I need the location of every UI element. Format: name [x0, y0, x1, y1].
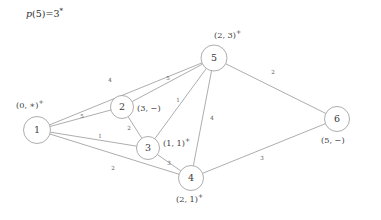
node-label-2: 2	[119, 101, 125, 112]
edge-weight-1-3: 1	[98, 133, 102, 139]
node-tag-value-2: (3, −)	[137, 103, 161, 113]
node-tag-4: (2, 1)+	[176, 194, 203, 204]
edge-weight-5-4: 4	[210, 115, 214, 121]
edges-group	[50, 63, 326, 174]
node-tag-value-3: (1, 1)	[163, 138, 185, 148]
edge-weight-3-4: 3	[167, 160, 171, 166]
node-tag-value-1: (0, ∗)	[16, 100, 38, 110]
node-tag-marker-1: +	[38, 98, 43, 105]
node-label-5: 5	[211, 52, 217, 63]
node-label-4: 4	[188, 172, 194, 183]
edge-weight-1-2: 5	[80, 113, 84, 119]
node-tag-marker-5: +	[236, 28, 241, 35]
edge-weight-2-5: 5	[166, 75, 170, 81]
edge-1-3	[50, 132, 136, 146]
nodes-group: 123456	[24, 45, 350, 191]
edge-weight-1-5: 4	[108, 77, 112, 83]
node-tag-1: (0, ∗)+	[16, 100, 44, 110]
edge-weight-1-4: 2	[111, 165, 115, 171]
edge-2-5	[132, 64, 202, 101]
node-label-6: 6	[334, 113, 340, 124]
edge-weight-2-3: 2	[127, 125, 131, 131]
node-tag-6: (5, −)	[321, 135, 345, 145]
graph-diagram-canvas: p(5)=3* 123456 45125213423 (0, ∗)+(3, −)…	[0, 0, 381, 220]
graph-svg: 123456	[0, 0, 381, 220]
node-tag-marker-3: +	[185, 136, 190, 143]
node-tag-3: (1, 1)+	[163, 138, 190, 148]
edge-4-6	[203, 124, 326, 174]
node-tag-value-6: (5, −)	[321, 135, 345, 145]
node-tag-value-5: (2, 3)	[214, 30, 236, 40]
node-tag-marker-4: +	[198, 192, 203, 199]
node-label-1: 1	[34, 124, 40, 135]
edge-weight-3-5: 1	[176, 97, 180, 103]
node-label-3: 3	[145, 142, 151, 153]
edge-5-6	[226, 64, 326, 114]
edge-weight-5-6: 2	[271, 69, 275, 75]
node-tag-2: (3, −)	[137, 103, 161, 113]
node-tag-5: (2, 3)+	[214, 30, 241, 40]
edge-weight-4-6: 3	[260, 155, 264, 161]
node-tag-value-4: (2, 1)	[176, 194, 198, 204]
edge-5-4	[193, 71, 211, 166]
